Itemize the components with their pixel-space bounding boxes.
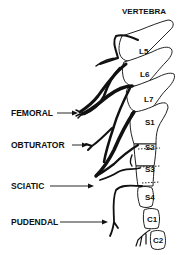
label-s2: S2: [145, 143, 155, 152]
label-l5: L5: [139, 47, 149, 56]
label-femoral: FEMORAL: [11, 108, 53, 118]
arrowhead-obturator: [82, 143, 88, 148]
label-sciatic: SCIATIC: [11, 181, 44, 191]
label-obturator: OBTURATOR: [11, 140, 65, 150]
label-l7: L7: [144, 95, 154, 104]
label-l6: L6: [140, 70, 150, 79]
nerve-plexus-diagram: VERTEBRA L5 L6 L7 S1 S2 S3 S4 C1 C2: [0, 0, 186, 255]
label-pudendal: PUDENDAL: [11, 217, 58, 227]
label-c1: C1: [147, 215, 158, 224]
label-s3: S3: [145, 165, 155, 174]
vertebra-title: VERTEBRA: [122, 7, 166, 16]
nerve-coccygeal: [136, 230, 150, 246]
label-c2: C2: [153, 236, 164, 245]
nerve-root-s2: [96, 145, 138, 176]
arrowhead-pudendal: [102, 220, 108, 225]
label-s1: S1: [145, 118, 155, 127]
arrowhead-sciatic: [88, 184, 94, 189]
label-s4: S4: [145, 193, 155, 202]
nerve-s2-loop: [131, 155, 133, 166]
nerve-labels: FEMORAL OBTURATOR SCIATIC PUDENDAL: [11, 108, 108, 227]
